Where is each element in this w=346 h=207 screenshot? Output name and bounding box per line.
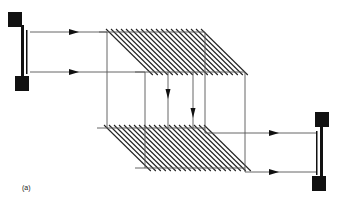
hatch-line [106,29,153,75]
hatch-line [134,125,181,171]
hatch-line [176,29,223,75]
hatch-line [199,125,246,171]
hatch-line [146,29,193,75]
arrow-right-icon [69,29,79,35]
hatch-line [174,125,221,171]
hatch-line [179,125,226,171]
thick-bar [21,25,24,78]
hatch-line [166,29,213,75]
hatch-line [139,125,186,171]
hatch-line [114,125,161,171]
hatch-line [196,29,243,75]
hatch-line [161,29,208,75]
hatch-line [194,125,241,171]
hatch-line [116,29,163,75]
arrow-down-icon [166,89,171,99]
hatch-line [126,29,173,75]
hatch-line [121,29,168,75]
hatch-line [131,29,178,75]
arrow-right-icon [269,169,279,175]
hatch-line [164,125,211,171]
block-icon [8,12,22,27]
hatch-line [111,29,158,75]
grating-diagram [0,0,346,207]
hatch-line [149,125,196,171]
upper-grating [106,29,248,75]
arrow-down-icon [191,108,196,118]
hatch-line [154,125,201,171]
grating-edges [97,32,245,168]
hatch-line [169,125,216,171]
hatch-line [204,125,251,171]
hatch-line [159,125,206,171]
hatch-line [201,29,248,75]
hatch-line [184,125,231,171]
block-icon [312,176,326,191]
hatch-line [104,125,151,171]
lower-grating [104,125,251,171]
arrow-right-icon [69,69,79,75]
block-icon [15,76,29,91]
hatch-line [136,29,183,75]
figure-label: (a) [22,184,31,191]
hatch-line [141,29,188,75]
thick-bar [320,125,323,178]
thin-bar [26,30,28,74]
hatch-line [109,125,156,171]
left-source-element [8,12,29,91]
hatch-line [181,29,228,75]
hatch-line [191,29,238,75]
hatch-line [124,125,171,171]
block-icon [315,112,329,127]
hatch-line [189,125,236,171]
right-detector-element [312,112,329,191]
hatch-line [119,125,166,171]
hatch-line [186,29,233,75]
hatch-line [171,29,218,75]
hatch-line [144,125,191,171]
thin-bar [316,131,318,175]
hatch-line [151,29,198,75]
hatch-line [156,29,203,75]
arrow-right-icon [269,130,279,136]
hatch-line [129,125,176,171]
